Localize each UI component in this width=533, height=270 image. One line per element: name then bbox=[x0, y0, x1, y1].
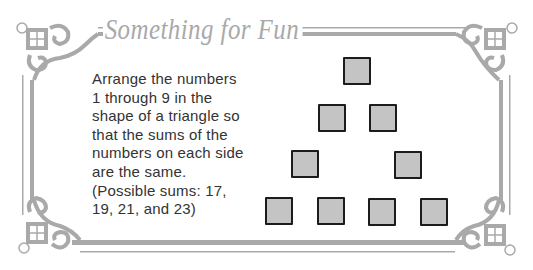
instruction-line: Arrange the numbers bbox=[92, 70, 292, 89]
instruction-line: that the sums of the bbox=[92, 126, 292, 145]
number-box-bottom-3[interactable] bbox=[368, 198, 396, 226]
number-box-left-2[interactable] bbox=[318, 104, 346, 132]
instruction-line: 1 through 9 in the bbox=[92, 89, 292, 108]
number-box-bottom-2[interactable] bbox=[317, 197, 345, 225]
number-box-left-3[interactable] bbox=[291, 150, 319, 178]
instruction-line: (Possible sums: 17, bbox=[92, 182, 292, 201]
instruction-line: are the same. bbox=[92, 163, 292, 182]
instruction-line: shape of a triangle so bbox=[92, 107, 292, 126]
corner-ornament-top-right bbox=[456, 23, 517, 80]
corner-ornament-bottom-right bbox=[456, 198, 515, 255]
number-box-right-2[interactable] bbox=[369, 104, 397, 132]
corner-ornament-top-left bbox=[17, 23, 98, 80]
instruction-line: 19, 21, and 23) bbox=[92, 200, 292, 219]
section-title: Something for Fun bbox=[103, 12, 303, 46]
puzzle-instructions: Arrange the numbers 1 through 9 in the s… bbox=[92, 70, 292, 219]
instruction-line: numbers on each side bbox=[92, 144, 292, 163]
number-box-right-3[interactable] bbox=[394, 151, 422, 179]
corner-ornament-bottom-left bbox=[19, 198, 80, 253]
number-box-bottom-4[interactable] bbox=[420, 198, 448, 226]
number-box-bottom-1[interactable] bbox=[265, 197, 293, 225]
number-box-apex[interactable] bbox=[343, 57, 371, 85]
